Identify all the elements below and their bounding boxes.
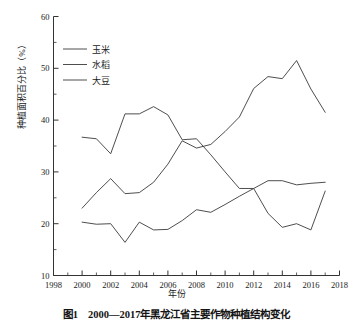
series-line-3: [82, 188, 325, 242]
figure-caption: 图1 2000—2017年黑龙江省主要作物种植结构变化: [0, 306, 353, 321]
axis-layer: 1020304050601998200020022004200620082010…: [41, 12, 348, 290]
y-tick-label: 50: [41, 63, 50, 73]
y-tick-label: 20: [41, 219, 50, 229]
y-axis-title: 种植面积百分比（%）: [15, 0, 28, 170]
series-layer: [82, 61, 325, 243]
y-tick-label: 40: [41, 115, 50, 125]
legend-label-1: 玉米: [92, 44, 110, 55]
y-tick-label: 30: [41, 167, 50, 177]
series-line-1: [82, 61, 325, 209]
legend-label-3: 大豆: [92, 75, 110, 86]
x-axis-title: 年份: [0, 287, 353, 300]
series-line-2: [82, 107, 325, 189]
y-tick-label: 60: [41, 12, 50, 22]
legend-label-2: 水稻: [92, 59, 110, 70]
legend-layer: 玉米水稻大豆: [63, 44, 110, 86]
